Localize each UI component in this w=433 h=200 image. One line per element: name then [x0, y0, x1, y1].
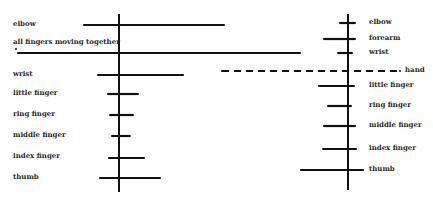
- endpoint-dot: [355, 148, 357, 150]
- endpoint-dot: [354, 22, 356, 24]
- left-label-all-fingers: all fingers moving together: [13, 38, 120, 46]
- right-label-elbow: elbow: [369, 18, 392, 26]
- endpoint-dot: [109, 114, 111, 116]
- left-label-little-finger: little finger: [13, 89, 58, 97]
- endpoint-dot: [337, 52, 339, 54]
- right-label-thumb: thumb: [369, 165, 395, 173]
- left-label-elbow: elbow: [13, 20, 36, 28]
- endpoint-dot: [97, 74, 99, 76]
- endpoint-dot: [354, 125, 356, 127]
- endpoint-dot: [353, 85, 355, 87]
- right-label-forearm: forearm: [369, 34, 400, 42]
- endpoint-dot: [399, 70, 401, 72]
- right-label-index-finger: index finger: [369, 144, 416, 152]
- endpoint-dot: [108, 157, 110, 159]
- endpoint-dot: [354, 38, 356, 40]
- endpoint-dot: [143, 157, 145, 159]
- endpoint-dot: [318, 85, 320, 87]
- endpoint-dot: [99, 177, 101, 179]
- endpoint-dot: [223, 24, 225, 26]
- endpoint-dot: [129, 135, 131, 137]
- endpoint-dot: [339, 22, 341, 24]
- endpoint-dot: [362, 169, 364, 171]
- endpoint-dot: [323, 38, 325, 40]
- endpoint-dot: [182, 74, 184, 76]
- left-label-middle-finger: middle finger: [13, 131, 66, 139]
- right-label-hand: hand: [405, 66, 425, 74]
- endpoint-dot: [350, 105, 352, 107]
- endpoint-dot: [299, 52, 301, 54]
- endpoint-dot: [323, 125, 325, 127]
- right-label-middle-finger: middle finger: [369, 121, 422, 129]
- endpoint-dot: [83, 24, 85, 26]
- marker-dot: [15, 48, 17, 50]
- endpoint-dot: [327, 105, 329, 107]
- right-label-little-finger: little finger: [369, 81, 414, 89]
- right-label-wrist: wrist: [369, 48, 389, 56]
- left-label-wrist: wrist: [13, 70, 33, 78]
- endpoint-dot: [137, 93, 139, 95]
- endpoint-dot: [221, 70, 223, 72]
- left-label-ring-finger: ring finger: [13, 110, 55, 118]
- left-label-index-finger: index finger: [13, 152, 60, 160]
- endpoint-dot: [322, 148, 324, 150]
- left-label-thumb: thumb: [13, 173, 39, 181]
- endpoint-dot: [17, 52, 19, 54]
- endpoint-dot: [111, 135, 113, 137]
- endpoint-dot: [107, 93, 109, 95]
- endpoint-dot: [300, 169, 302, 171]
- endpoint-dot: [351, 52, 353, 54]
- endpoint-dot: [132, 114, 134, 116]
- endpoint-dot: [159, 177, 161, 179]
- right-label-ring-finger: ring finger: [369, 101, 411, 109]
